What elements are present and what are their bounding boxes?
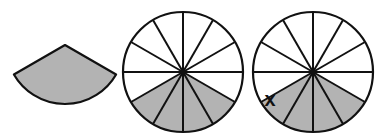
sector-shape xyxy=(14,45,116,104)
circle-twelve-parts-with-x: x xyxy=(253,12,373,132)
center-dot xyxy=(180,69,186,75)
sector-piece xyxy=(14,45,116,104)
x-label: x xyxy=(264,88,275,110)
circle-twelve-parts-shaded xyxy=(123,12,243,132)
fraction-circles-diagram: x xyxy=(0,0,388,140)
center-dot xyxy=(310,69,316,75)
